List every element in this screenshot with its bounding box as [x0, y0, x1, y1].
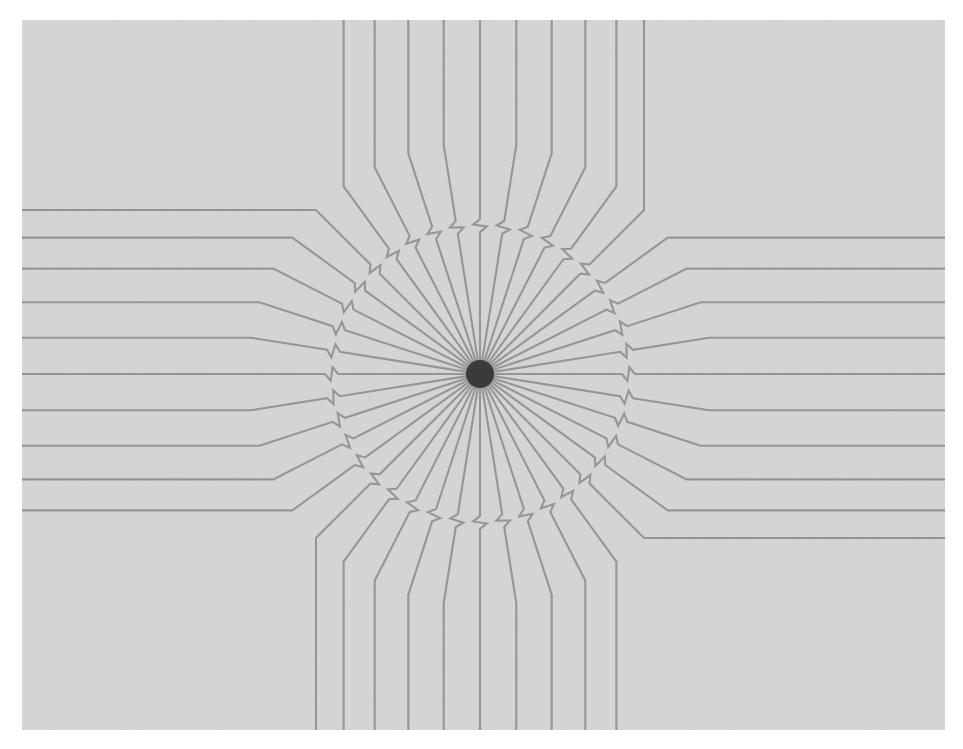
center-hub: [466, 360, 494, 388]
radial-line-diagram: [0, 0, 963, 749]
figure-root: [0, 0, 963, 749]
